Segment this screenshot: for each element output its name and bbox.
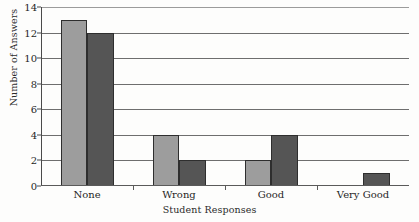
y-tick-label: 10 xyxy=(24,53,37,64)
bar xyxy=(179,160,206,186)
x-axis-line xyxy=(41,185,409,186)
plot-area: 02468101214 xyxy=(41,7,409,186)
bar xyxy=(153,135,180,186)
y-tick-label: 14 xyxy=(24,2,37,13)
y-tick-label: 8 xyxy=(31,78,37,89)
x-tick-mark xyxy=(225,186,226,190)
bar xyxy=(87,33,114,186)
y-axis-line xyxy=(41,7,42,186)
x-category-label: None xyxy=(73,189,100,200)
bar-chart: Number of Answers 02468101214 NoneWrongG… xyxy=(0,0,419,222)
y-tick-label: 4 xyxy=(31,129,37,140)
bar xyxy=(271,135,298,186)
y-tick-label: 6 xyxy=(31,104,37,115)
gridline xyxy=(41,7,409,8)
bar xyxy=(61,20,88,186)
y-tick-label: 12 xyxy=(24,27,37,38)
y-axis-title: Number of Answers xyxy=(8,0,19,123)
x-category-label: Wrong xyxy=(162,189,195,200)
y-tick-label: 0 xyxy=(31,181,37,192)
x-tick-mark xyxy=(133,186,134,190)
y-tick-label: 2 xyxy=(31,155,37,166)
bar xyxy=(245,160,272,186)
x-category-label: Very Good xyxy=(337,189,389,200)
x-axis-title: Student Responses xyxy=(0,204,419,215)
x-category-label: Good xyxy=(258,189,284,200)
x-tick-mark xyxy=(317,186,318,190)
